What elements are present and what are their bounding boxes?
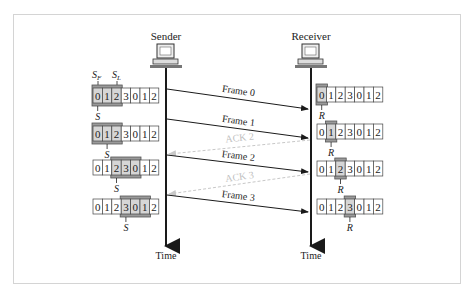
receiver-window-2: 0123012R bbox=[317, 158, 383, 195]
svg-text:1: 1 bbox=[328, 201, 334, 213]
svg-text:3: 3 bbox=[347, 201, 353, 213]
svg-text:1: 1 bbox=[104, 201, 110, 213]
svg-text:1: 1 bbox=[328, 126, 334, 138]
svg-text:1: 1 bbox=[142, 90, 148, 102]
svg-text:2: 2 bbox=[151, 128, 157, 140]
sender-title: Sender bbox=[151, 30, 182, 42]
svg-text:3: 3 bbox=[123, 90, 129, 102]
svg-text:3: 3 bbox=[123, 201, 129, 213]
sender-computer-icon bbox=[150, 44, 182, 68]
svg-text:Frame 0: Frame 0 bbox=[221, 83, 255, 98]
svg-text:0: 0 bbox=[319, 201, 325, 213]
svg-text:1: 1 bbox=[104, 162, 110, 174]
svg-text:1: 1 bbox=[142, 162, 148, 174]
svg-text:2: 2 bbox=[375, 89, 381, 101]
svg-text:0: 0 bbox=[95, 201, 101, 213]
sender-window-2: 0123012S bbox=[93, 157, 159, 194]
receiver-window-1: 0123012R bbox=[317, 121, 383, 158]
svg-text:1: 1 bbox=[328, 89, 334, 101]
svg-text:2: 2 bbox=[338, 89, 344, 101]
svg-text:0: 0 bbox=[357, 126, 363, 138]
frame-0-arrow: Frame 0 bbox=[167, 83, 308, 109]
svg-text:0: 0 bbox=[357, 201, 363, 213]
svg-text:1: 1 bbox=[142, 128, 148, 140]
svg-text:ACK 2: ACK 2 bbox=[225, 131, 255, 145]
svg-text:0: 0 bbox=[319, 126, 325, 138]
svg-text:3: 3 bbox=[123, 128, 129, 140]
svg-text:0: 0 bbox=[95, 90, 101, 102]
receiver-windows: 0123012R0123012R0123012R0123012R bbox=[316, 84, 383, 233]
svg-text:0: 0 bbox=[95, 162, 101, 174]
svg-text:2: 2 bbox=[151, 162, 157, 174]
svg-text:2: 2 bbox=[151, 201, 157, 213]
sender-window-3: 0123012S bbox=[93, 196, 159, 233]
receiver-computer-icon bbox=[295, 44, 327, 68]
svg-text:3: 3 bbox=[123, 162, 129, 174]
svg-text:1: 1 bbox=[328, 163, 334, 175]
svg-text:1: 1 bbox=[142, 201, 148, 213]
sender-windows: 0123012S0123012S0123012S0123012S bbox=[92, 85, 159, 233]
svg-text:0: 0 bbox=[133, 201, 139, 213]
svg-text:1: 1 bbox=[104, 90, 110, 102]
svg-text:2: 2 bbox=[151, 90, 157, 102]
svg-text:0: 0 bbox=[133, 162, 139, 174]
svg-text:ACK 3: ACK 3 bbox=[225, 169, 255, 184]
svg-text:Frame 2: Frame 2 bbox=[221, 148, 255, 163]
sliding-window-diagram: Sender Time Receiver Time Frame 0 Frame … bbox=[0, 0, 474, 286]
svg-text:2: 2 bbox=[114, 201, 120, 213]
svg-text:2: 2 bbox=[375, 126, 381, 138]
svg-text:2: 2 bbox=[338, 126, 344, 138]
svg-text:S: S bbox=[123, 222, 128, 233]
svg-text:R: R bbox=[318, 110, 325, 121]
svg-text:0: 0 bbox=[95, 128, 101, 140]
svg-text:0: 0 bbox=[357, 163, 363, 175]
svg-text:SL: SL bbox=[112, 69, 121, 82]
svg-text:2: 2 bbox=[114, 162, 120, 174]
frame-3-arrow: Frame 3 bbox=[167, 188, 308, 212]
sender-time-label: Time bbox=[156, 250, 177, 261]
svg-text:2: 2 bbox=[375, 201, 381, 213]
svg-text:1: 1 bbox=[366, 163, 372, 175]
svg-text:2: 2 bbox=[114, 128, 120, 140]
svg-text:2: 2 bbox=[338, 201, 344, 213]
receiver-window-0: 0123012R bbox=[316, 84, 383, 121]
receiver-time-label: Time bbox=[301, 250, 322, 261]
svg-text:1: 1 bbox=[366, 89, 372, 101]
sender-window-1: 0123012S bbox=[92, 123, 159, 160]
receiver-window-3: 0123012R bbox=[317, 196, 383, 233]
svg-text:S: S bbox=[105, 149, 110, 160]
svg-text:0: 0 bbox=[133, 128, 139, 140]
svg-text:3: 3 bbox=[347, 163, 353, 175]
svg-text:2: 2 bbox=[338, 163, 344, 175]
svg-text:Frame 3: Frame 3 bbox=[221, 188, 255, 203]
receiver-title: Receiver bbox=[291, 30, 330, 42]
svg-text:1: 1 bbox=[104, 128, 110, 140]
svg-text:2: 2 bbox=[114, 90, 120, 102]
svg-text:3: 3 bbox=[347, 126, 353, 138]
svg-text:0: 0 bbox=[319, 163, 325, 175]
svg-text:1: 1 bbox=[366, 126, 372, 138]
sender-window-0: 0123012S bbox=[92, 85, 159, 122]
svg-text:R: R bbox=[327, 147, 334, 158]
svg-text:0: 0 bbox=[357, 89, 363, 101]
svg-text:R: R bbox=[336, 184, 343, 195]
svg-text:3: 3 bbox=[347, 89, 353, 101]
svg-text:2: 2 bbox=[375, 163, 381, 175]
svg-text:0: 0 bbox=[319, 89, 325, 101]
svg-text:0: 0 bbox=[133, 90, 139, 102]
svg-text:Frame 1: Frame 1 bbox=[221, 113, 255, 128]
svg-text:R: R bbox=[346, 222, 353, 233]
svg-text:S: S bbox=[95, 111, 100, 122]
svg-text:SF: SF bbox=[92, 69, 102, 82]
svg-text:S: S bbox=[114, 183, 119, 194]
svg-text:1: 1 bbox=[366, 201, 372, 213]
